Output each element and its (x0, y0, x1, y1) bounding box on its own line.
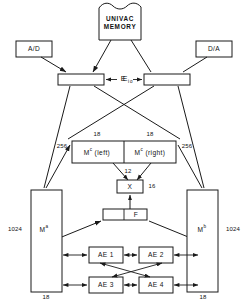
da-converter-node: D/A (196, 41, 232, 57)
right-256-label: 256 (182, 143, 193, 149)
univac-memory-label-line1: UNIVAC (106, 15, 134, 22)
ae3-label: AE 3 (98, 281, 114, 288)
univac-ei-link (93, 40, 111, 72)
eo-label-subscript: o (130, 79, 133, 84)
univac-block-diagram: UNIVAC MEMORY A/D D/A E i E o (0, 0, 249, 303)
ae2-ae3-cross (112, 263, 162, 277)
x-label: X (128, 183, 133, 190)
f-box (103, 209, 147, 220)
ei-to-ma-line (44, 86, 70, 188)
eo-to-da-line (183, 57, 207, 72)
x-multiplier-node: X (117, 180, 143, 193)
left-256-label: 256 (57, 143, 68, 149)
mb-width-label: 18 (199, 294, 207, 300)
ad-converter-node: A/D (16, 41, 52, 57)
ae2-label: AE 2 (148, 251, 164, 258)
eo-label: E (123, 75, 128, 82)
ae4-label: AE 4 (148, 281, 164, 288)
ma-memory-node: Ma (31, 190, 62, 292)
diagram-canvas: UNIVAC MEMORY A/D D/A E i E o (0, 0, 249, 303)
ma-width-label: 18 (42, 294, 50, 300)
ei-box (58, 74, 104, 85)
eo-to-univac-line (131, 40, 151, 72)
x-input-width-label: 12 (124, 168, 132, 174)
f-label: F (134, 211, 138, 218)
mb-box (187, 190, 218, 292)
da-label: D/A (208, 45, 220, 52)
mc-right-to-x-arrow (137, 163, 151, 180)
mb-depth-label: 1024 (226, 226, 241, 232)
univac-memory-label-line2: MEMORY (104, 23, 137, 30)
ad-to-ei-arrow (41, 57, 66, 72)
ad-label: A/D (28, 45, 40, 52)
univac-memory-node: UNIVAC MEMORY (99, 3, 141, 40)
mb-to-eo-line (178, 86, 204, 188)
ae1-label: AE 1 (98, 251, 114, 258)
mb-memory-node: Mb (187, 190, 218, 292)
ae1-ae4-cross (100, 263, 150, 277)
mc-right-width-label: 18 (146, 131, 154, 137)
ae2-node: AE 2 (139, 247, 173, 263)
eo-label-group: E o (123, 75, 142, 84)
ei-to-mc-right-line (94, 86, 180, 139)
ei-register-node (58, 74, 104, 85)
ei-label-subscript: i (128, 79, 129, 84)
f-register-node: F (103, 209, 147, 220)
ae3-node: AE 3 (89, 277, 123, 293)
mc-left-to-eo-line (68, 86, 154, 139)
univac-eo-link (131, 40, 151, 72)
x-output-width-label: 16 (148, 183, 156, 189)
ma-depth-label: 1024 (8, 226, 23, 232)
mc-left-width-label: 18 (93, 131, 101, 137)
mc-left-label: Mc (left) (84, 147, 110, 156)
mc-register-node: Mc (left) Mc (right) (72, 141, 176, 163)
ma-box (31, 190, 62, 292)
ae4-node: AE 4 (139, 277, 173, 293)
eo-box (144, 74, 190, 85)
mc-right-label: Mc (right) (135, 147, 166, 156)
univac-to-ei-arrow (93, 40, 111, 72)
eo-register-node (144, 74, 190, 85)
ae1-node: AE 1 (89, 247, 123, 263)
